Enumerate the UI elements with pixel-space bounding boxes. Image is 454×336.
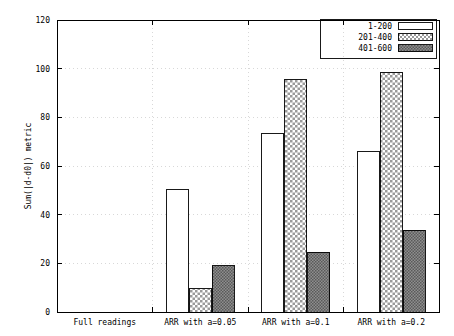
legend-swatch [398, 45, 432, 52]
y-tick-label: 80 [40, 113, 50, 122]
bar [357, 151, 379, 312]
bar [166, 189, 188, 312]
bar [403, 230, 425, 312]
y-tick-label: 20 [40, 259, 50, 268]
bar [262, 133, 284, 312]
bar [308, 252, 330, 312]
x-tick-label: ARR with a=0.1 [262, 318, 330, 327]
y-tick-label: 60 [40, 162, 50, 171]
y-axis-title: Sum(|d-d0|) metric [24, 122, 33, 209]
y-tick-label: 0 [45, 308, 50, 317]
legend-label: 201-400 [358, 33, 392, 42]
legend-label: 1-200 [368, 22, 392, 31]
y-tick-label: 40 [40, 211, 50, 220]
bar [380, 72, 402, 312]
x-tick-label: ARR with a=0.2 [358, 318, 426, 327]
y-tick-label: 100 [36, 65, 51, 74]
y-tick-label: 120 [36, 16, 51, 25]
bar-chart: 020406080100120 Full readingsARR with a=… [0, 0, 454, 336]
x-tick-label: ARR with a=0.05 [164, 318, 236, 327]
legend-label: 401-600 [358, 44, 392, 53]
bar [285, 80, 307, 312]
chart-canvas: 020406080100120 Full readingsARR with a=… [0, 0, 454, 336]
bar [189, 289, 211, 312]
x-tick-label: Full readings [73, 318, 136, 327]
legend-swatch [398, 23, 432, 30]
bar [212, 266, 234, 312]
legend-swatch [398, 34, 432, 41]
